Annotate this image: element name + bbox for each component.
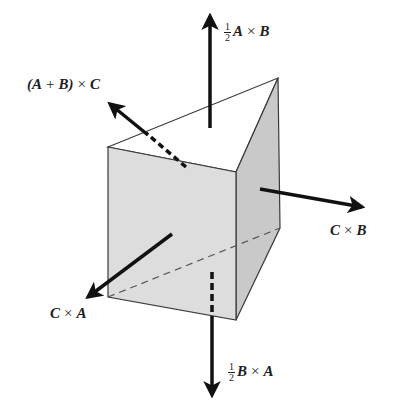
- prism-diagram: [0, 0, 400, 413]
- fraction-half: 1 2: [228, 362, 235, 383]
- label-c-cross-a: C×A: [50, 306, 87, 321]
- label-half-a-cross-b: 1 2 A×B: [224, 22, 270, 43]
- label-half-b-cross-a: 1 2 B×A: [228, 362, 274, 383]
- label-a-plus-b-cross-c: (A+B)×C: [27, 77, 100, 92]
- fraction-half: 1 2: [224, 22, 231, 43]
- prism-front-face: [108, 147, 236, 320]
- label-c-cross-b: C×B: [330, 223, 367, 238]
- normal-arrow-back: [110, 104, 148, 135]
